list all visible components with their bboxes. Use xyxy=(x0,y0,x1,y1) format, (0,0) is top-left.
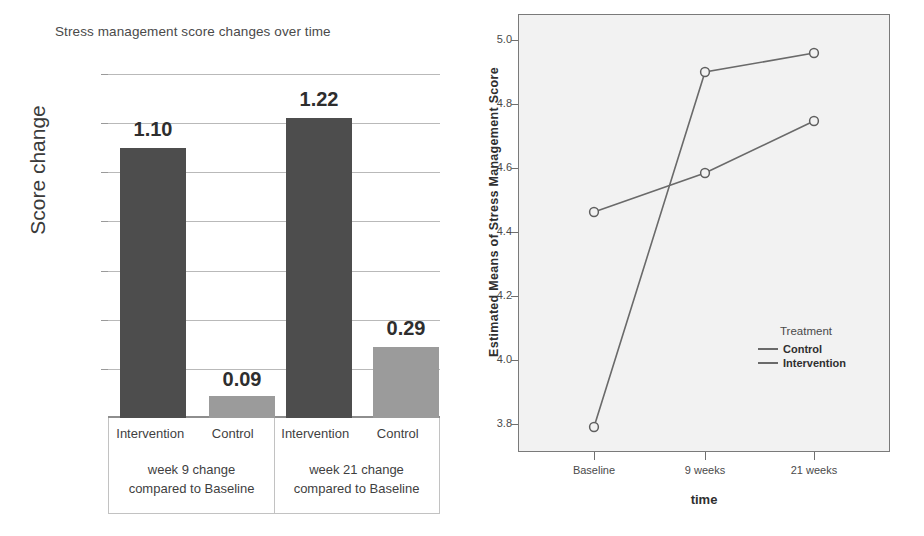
legend-label-intervention: Intervention xyxy=(783,357,846,369)
line-plot-area xyxy=(518,14,890,452)
line-y-tick-mark xyxy=(511,296,518,297)
bar-y-tick-mark xyxy=(101,221,108,222)
group-label-week21-line2: compared to Baseline xyxy=(294,480,420,499)
two-panel-figure: Stress management score changes over tim… xyxy=(0,0,924,536)
bar-week21-intervention[interactable] xyxy=(286,118,352,418)
bar-chart-title: Stress management score changes over tim… xyxy=(55,24,435,39)
line-y-tick-mark xyxy=(511,424,518,425)
legend-item-control[interactable]: Control xyxy=(758,343,888,355)
bar-y-tick-mark xyxy=(101,74,108,75)
bar-y-tick-mark xyxy=(101,271,108,272)
line-x-tick-label-21weeks: 21 weeks xyxy=(769,464,859,476)
line-y-tick-mark xyxy=(511,360,518,361)
group-label-week9-line1: week 9 change xyxy=(148,461,235,480)
line-y-tick-label-40: 4.0 xyxy=(478,353,512,365)
line-x-tick-mark xyxy=(705,452,706,460)
category-label-week9-control: Control xyxy=(192,418,275,448)
line-chart-x-axis-title: time xyxy=(518,492,890,507)
line-y-tick-label-46: 4.6 xyxy=(478,161,512,173)
category-group-divider xyxy=(274,418,275,513)
line-x-tick-label-baseline: Baseline xyxy=(549,464,639,476)
line-y-tick-label-48: 4.8 xyxy=(478,97,512,109)
bar-week21-control[interactable] xyxy=(373,347,439,418)
line-chart-legend: Treatment Control Intervention xyxy=(758,325,888,371)
legend-label-control: Control xyxy=(783,343,822,355)
line-x-tick-mark xyxy=(814,452,815,460)
group-label-week9-line2: compared to Baseline xyxy=(129,480,255,499)
legend-title: Treatment xyxy=(758,325,888,337)
line-y-tick-mark xyxy=(511,40,518,41)
group-label-week21: week 21 change compared to Baseline xyxy=(274,448,439,512)
bar-value-label-week21-control: 0.29 xyxy=(373,317,439,340)
bar-chart-panel: Stress management score changes over tim… xyxy=(0,0,470,536)
line-y-tick-label-38: 3.8 xyxy=(478,417,512,429)
category-label-week9-intervention: Intervention xyxy=(109,418,192,448)
group-label-week9: week 9 change compared to Baseline xyxy=(109,448,274,512)
group-label-week21-line1: week 21 change xyxy=(309,461,404,480)
bar-value-label-week21-intervention: 1.22 xyxy=(286,88,352,111)
bar-y-tick-mark xyxy=(101,320,108,321)
line-x-tick-mark xyxy=(594,452,595,460)
bar-value-label-week9-control: 0.09 xyxy=(209,368,275,391)
legend-item-intervention[interactable]: Intervention xyxy=(758,357,888,369)
line-chart-panel: Estimated Means of Stress Management Sco… xyxy=(470,0,924,536)
gridline-140 xyxy=(108,74,440,75)
bar-plot-area: 1.10 0.09 1.22 0.29 xyxy=(108,74,440,418)
line-y-tick-mark xyxy=(511,232,518,233)
bar-value-label-week9-intervention: 1.10 xyxy=(120,118,186,141)
line-x-tick-label-9weeks: 9 weeks xyxy=(660,464,750,476)
line-y-tick-label-50: 5.0 xyxy=(478,33,512,45)
bar-week9-control[interactable] xyxy=(209,396,275,418)
bar-y-tick-mark xyxy=(101,369,108,370)
bar-category-axis: Intervention Control Intervention Contro… xyxy=(108,418,440,514)
bar-chart-y-axis-title: Score change xyxy=(26,40,50,300)
bar-y-tick-mark xyxy=(101,172,108,173)
category-label-week21-control: Control xyxy=(357,418,440,448)
line-y-tick-label-42: 4.2 xyxy=(478,289,512,301)
bar-week9-intervention[interactable] xyxy=(120,148,186,418)
line-y-tick-mark xyxy=(511,104,518,105)
line-chart-y-axis-title: Estimated Means of Stress Management Sco… xyxy=(487,0,501,432)
line-y-tick-label-44: 4.4 xyxy=(478,225,512,237)
legend-swatch-intervention-icon xyxy=(758,362,778,364)
legend-swatch-control-icon xyxy=(758,348,778,350)
bar-y-tick-mark xyxy=(101,123,108,124)
category-label-week21-intervention: Intervention xyxy=(274,418,357,448)
line-y-tick-mark xyxy=(511,168,518,169)
